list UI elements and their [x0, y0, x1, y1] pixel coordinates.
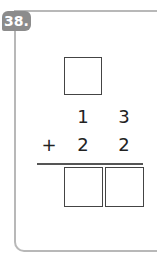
answer-tens-box[interactable] — [64, 167, 103, 207]
carry-answer-box[interactable] — [64, 57, 102, 95]
addend2-tens-digit: 2 — [75, 135, 91, 155]
problem-number-badge: 38. — [2, 11, 31, 31]
addend1-ones-digit: 3 — [116, 107, 132, 127]
addend1-tens-digit: 1 — [75, 107, 91, 127]
sum-line — [37, 163, 143, 165]
answer-ones-box[interactable] — [105, 167, 144, 207]
plus-operator: + — [41, 135, 57, 155]
problem-card — [14, 10, 157, 252]
addend2-ones-digit: 2 — [116, 135, 132, 155]
